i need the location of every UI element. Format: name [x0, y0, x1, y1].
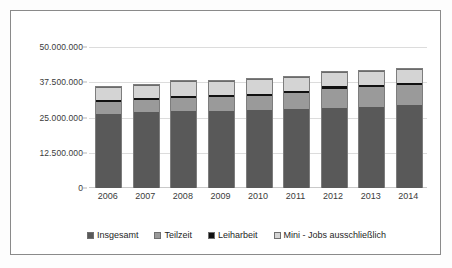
x-axis-tick-label: 2007	[135, 191, 155, 201]
bar-segment-teilzeit	[284, 93, 309, 109]
gridline	[89, 47, 427, 48]
legend-swatch-icon	[154, 232, 161, 239]
bar-segment-insgesamt	[322, 108, 347, 188]
y-axis-tick-label: 12.500.000	[15, 148, 83, 158]
x-axis-tick-label: 2014	[398, 191, 418, 201]
bar-segment-mini-jobs-ausschlie-lich	[134, 85, 159, 98]
bar-segment-insgesamt	[134, 112, 159, 188]
bar-column	[208, 80, 235, 188]
bar-segment-teilzeit	[247, 96, 272, 110]
bar-segment-mini-jobs-ausschlie-lich	[96, 87, 121, 100]
y-axis-tick-label: 37.500.000	[15, 77, 83, 87]
bar-column	[95, 86, 122, 188]
y-axis-tick-mark	[83, 47, 87, 48]
bar-segment-teilzeit	[359, 87, 384, 106]
bar-segment-mini-jobs-ausschlie-lich	[397, 69, 422, 83]
bar-segment-insgesamt	[247, 110, 272, 188]
bar-segment-insgesamt	[96, 114, 121, 188]
bar-segment-teilzeit	[322, 89, 347, 108]
x-axis-tick-label: 2011	[286, 191, 305, 201]
y-axis-tick-mark	[83, 188, 87, 189]
y-axis: 012.500.00025.000.00037.500.00050.000.00…	[11, 47, 83, 188]
x-axis-tick-label: 2012	[323, 191, 343, 201]
legend-item[interactable]: Insgesamt	[87, 230, 139, 240]
bar-column	[133, 84, 160, 188]
bar-segment-insgesamt	[209, 111, 234, 188]
legend-item[interactable]: Teilzeit	[154, 230, 192, 240]
bar-segment-teilzeit	[209, 97, 234, 111]
legend-swatch-icon	[87, 232, 94, 239]
legend-item-label: Teilzeit	[164, 230, 192, 240]
bar-segment-mini-jobs-ausschlie-lich	[322, 72, 347, 86]
bar-column	[396, 68, 423, 188]
bar-segment-teilzeit	[397, 85, 422, 105]
legend-item[interactable]: Mini - Jobs ausschließlich	[274, 230, 387, 240]
legend-swatch-icon	[274, 232, 281, 239]
bar-column	[283, 76, 310, 188]
bar-segment-insgesamt	[284, 109, 309, 188]
bar-segment-mini-jobs-ausschlie-lich	[171, 81, 196, 95]
bar-segment-teilzeit	[134, 100, 159, 112]
x-axis-tick-label: 2010	[248, 191, 268, 201]
y-axis-tick-label: 0	[15, 183, 83, 193]
chart-frame: 012.500.00025.000.00037.500.00050.000.00…	[10, 10, 441, 255]
x-axis-tick-label: 2008	[173, 191, 193, 201]
bar-segment-teilzeit	[171, 98, 196, 111]
legend-item-label: Mini - Jobs ausschließlich	[284, 230, 387, 240]
bar-segment-mini-jobs-ausschlie-lich	[284, 77, 309, 91]
bar-segment-insgesamt	[359, 107, 384, 188]
x-axis: 200620072008200920102011201220132014	[89, 191, 427, 207]
legend-item-label: Leiharbeit	[218, 230, 258, 240]
bar-column	[170, 80, 197, 188]
bar-segment-mini-jobs-ausschlie-lich	[359, 71, 384, 85]
y-axis-tick-label: 50.000.000	[15, 42, 83, 52]
x-axis-tick-label: 2006	[98, 191, 118, 201]
bar-segment-mini-jobs-ausschlie-lich	[247, 79, 272, 93]
y-axis-tick-mark	[83, 117, 87, 118]
bar-segment-mini-jobs-ausschlie-lich	[209, 81, 234, 95]
bar-segment-insgesamt	[171, 111, 196, 188]
bar-column	[321, 71, 348, 188]
x-axis-tick-label: 2009	[210, 191, 230, 201]
bar-column	[358, 70, 385, 188]
legend-item[interactable]: Leiharbeit	[208, 230, 258, 240]
plot-area	[89, 47, 427, 188]
y-axis-tick-label: 25.000.000	[15, 113, 83, 123]
bar-segment-insgesamt	[397, 105, 422, 188]
y-axis-tick-mark	[83, 152, 87, 153]
bar-column	[246, 78, 273, 188]
chart-figure: 012.500.00025.000.00037.500.00050.000.00…	[0, 0, 452, 268]
chart-legend: InsgesamtTeilzeitLeiharbeitMini - Jobs a…	[21, 226, 452, 244]
x-axis-tick-label: 2013	[361, 191, 381, 201]
legend-item-label: Insgesamt	[97, 230, 139, 240]
legend-swatch-icon	[208, 232, 215, 239]
bar-segment-teilzeit	[96, 102, 121, 114]
y-axis-tick-mark	[83, 82, 87, 83]
